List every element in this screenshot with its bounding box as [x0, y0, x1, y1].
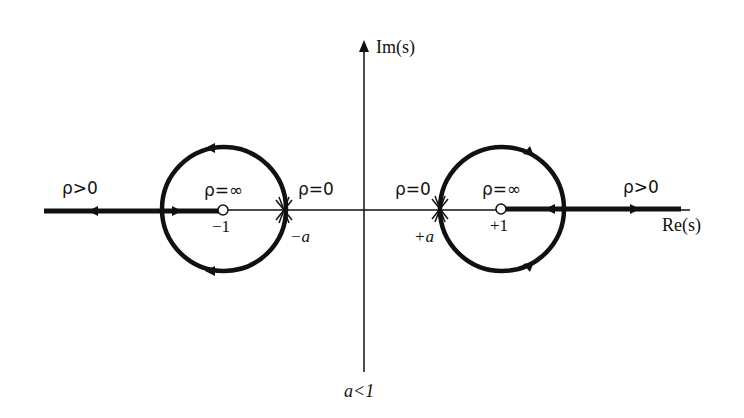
- imag-axis-label: Im(s): [376, 38, 415, 56]
- right-inf-gain-label: ρ=∞: [482, 181, 521, 198]
- real-axis-label: Re(s): [662, 216, 701, 234]
- right-zero-label: +1: [490, 217, 508, 234]
- left-zero-label: −1: [212, 218, 230, 235]
- right-branch-arrow-icon: [630, 204, 640, 214]
- right-branch-label: ρ>0: [623, 179, 659, 196]
- left-branch-label: ρ>0: [62, 180, 98, 197]
- left-pole-label: −a: [290, 228, 310, 245]
- left-inner-arrow-icon: [172, 206, 182, 216]
- imag-axis-arrow-icon: [359, 40, 369, 52]
- right-zero-icon: [496, 204, 506, 214]
- left-zero-gain-label: ρ=0: [298, 181, 334, 198]
- left-branch-arrow-icon: [88, 206, 98, 216]
- left-inf-gain-label: ρ=∞: [204, 182, 243, 199]
- condition-label: a<1: [344, 382, 374, 400]
- left-zero-icon: [218, 205, 228, 215]
- right-pole-label: +a: [414, 228, 434, 245]
- root-locus-svg: [0, 0, 744, 418]
- root-locus-diagram: Im(s) Re(s) a<1 ρ>0 ρ=∞ ρ=0 −1 −a ρ=0 ρ=…: [0, 0, 744, 418]
- right-zero-gain-label: ρ=0: [395, 181, 431, 198]
- right-inner-arrow-icon: [545, 204, 555, 214]
